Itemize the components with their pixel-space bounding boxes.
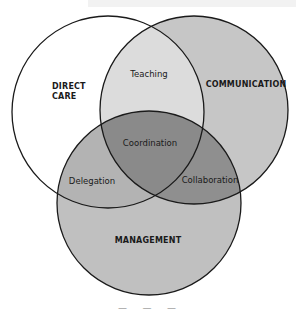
label-direct-care: DIRECT CARE <box>52 82 86 102</box>
venn-diagram <box>0 0 296 312</box>
label-teaching: Teaching <box>130 69 167 79</box>
label-management: MANAGEMENT <box>115 236 182 245</box>
label-collaboration: Collaboration <box>182 175 239 185</box>
caption-cutoff: — — — <box>0 303 296 312</box>
label-delegation: Delegation <box>69 176 115 186</box>
label-communication: COMMUNICATION <box>206 80 287 89</box>
label-coordination: Coordination <box>123 138 177 148</box>
